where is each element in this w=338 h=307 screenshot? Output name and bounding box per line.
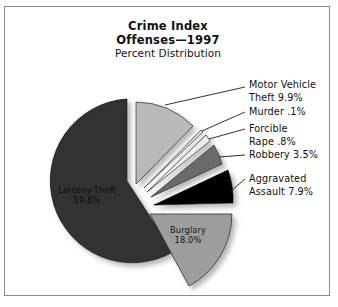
callout-aggravated-assault-line1: Aggravated	[249, 173, 313, 186]
leader-line-aggravated-assault	[231, 179, 245, 191]
slice-label-larceny-theft-line1: Larceny-Theft	[39, 185, 135, 195]
callout-label-motor-vehicle-theft: Motor Vehicle Theft 9.9%	[249, 79, 316, 104]
slice-label-burglary-line1: Burglary	[153, 225, 223, 235]
callout-label-murder: Murder .1%	[249, 106, 306, 119]
callout-robbery-line1: Robbery 3.5%	[249, 149, 318, 162]
callout-label-robbery: Robbery 3.5%	[249, 149, 318, 162]
slice-label-burglary-line2: 18.0%	[153, 235, 223, 245]
leader-line-motor-vehicle-theft	[165, 87, 245, 105]
slice-label-burglary: Burglary 18.0%	[153, 225, 223, 246]
callout-label-forcible-rape: Forcible Rape .8%	[249, 123, 296, 148]
callout-aggravated-assault-line2: Assault 7.9%	[249, 186, 313, 199]
slice-label-larceny-theft-line2: 59.8%	[39, 195, 135, 205]
leader-line-robbery	[219, 155, 245, 157]
slice-label-larceny-theft: Larceny-Theft 59.8%	[39, 185, 135, 206]
pie-chart-plot: Larceny-Theft 59.8% Burglary 18.0% Motor…	[5, 7, 331, 297]
callout-label-aggravated-assault: Aggravated Assault 7.9%	[249, 173, 313, 198]
leader-line-forcible-rape	[209, 129, 245, 139]
callout-murder-line1: Murder .1%	[249, 106, 306, 119]
chart-frame: Crime Index Offenses—1997 Percent Distri…	[4, 6, 330, 296]
callout-forcible-rape-line2: Rape .8%	[249, 136, 296, 149]
leader-line-murder	[202, 112, 245, 131]
callout-motor-vehicle-theft-line1: Motor Vehicle	[249, 79, 316, 92]
callout-motor-vehicle-theft-line2: Theft 9.9%	[249, 92, 316, 105]
callout-forcible-rape-line1: Forcible	[249, 123, 296, 136]
